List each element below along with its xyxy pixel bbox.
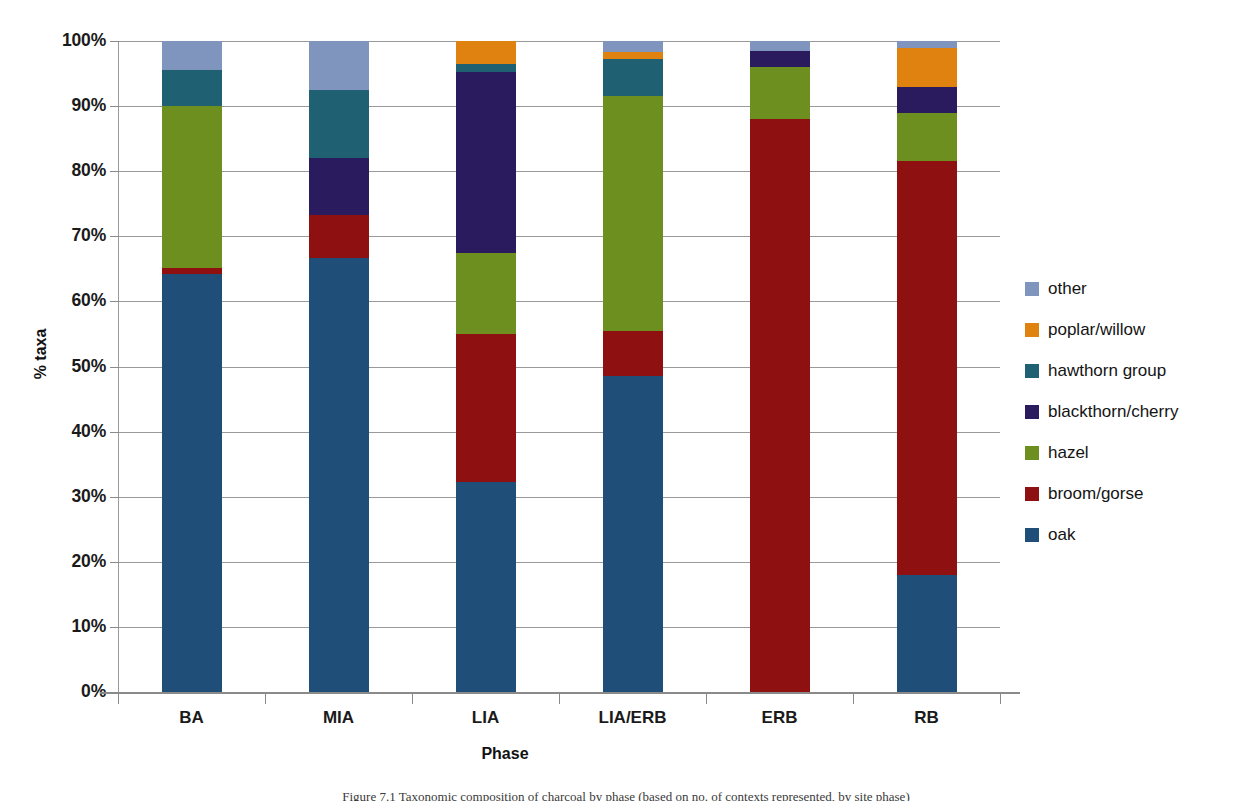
stacked-bar[interactable] (750, 41, 810, 692)
bar-segment-other[interactable] (603, 41, 663, 52)
bar-segment-broom-gorse[interactable] (603, 331, 663, 376)
legend-item-oak[interactable]: oak (1025, 514, 1250, 555)
x-axis-tick (265, 693, 266, 704)
stacked-bar[interactable] (456, 41, 516, 692)
bar-segment-other[interactable] (897, 41, 957, 48)
x-axis-label-mia: MIA (274, 708, 404, 728)
bar-segment-hazel[interactable] (456, 253, 516, 334)
bar-segment-poplar-willow[interactable] (603, 52, 663, 59)
legend-item-other[interactable]: other (1025, 268, 1250, 309)
x-axis-tick (853, 693, 854, 704)
legend-swatch-icon (1025, 282, 1039, 296)
y-axis-tick-label: 40% (40, 423, 106, 441)
x-axis-tick (1000, 693, 1001, 704)
legend-swatch-icon (1025, 405, 1039, 419)
x-axis-tick (118, 693, 119, 704)
bar-segment-oak[interactable] (603, 376, 663, 692)
bar-segment-blackthorn-cherry[interactable] (309, 158, 369, 215)
y-axis-tick-label: 80% (40, 162, 106, 180)
legend-label: blackthorn/cherry (1048, 403, 1178, 420)
y-axis-tick (110, 171, 119, 172)
chart-figure: % taxa 0%10%20%30%40%50%60%70%80%90%100%… (0, 0, 1252, 801)
gridline (118, 627, 1000, 628)
bar-group-lia-erb[interactable] (603, 41, 663, 692)
x-axis-title: Phase (0, 745, 1010, 763)
bar-group-lia[interactable] (456, 41, 516, 692)
bar-segment-oak[interactable] (897, 575, 957, 692)
legend-swatch-icon (1025, 446, 1039, 460)
gridline (118, 106, 1000, 107)
bar-group-rb[interactable] (897, 41, 957, 692)
bar-segment-hazel[interactable] (897, 113, 957, 162)
bar-segment-hazel[interactable] (162, 106, 222, 267)
stacked-bar[interactable] (309, 41, 369, 692)
x-axis-label-erb: ERB (715, 708, 845, 728)
legend-label: broom/gorse (1048, 485, 1143, 502)
y-axis-tick (110, 627, 119, 628)
bar-segment-hawthorn-group[interactable] (603, 59, 663, 97)
bar-segment-hawthorn-group[interactable] (162, 70, 222, 106)
bar-segment-broom-gorse[interactable] (309, 215, 369, 257)
legend-swatch-icon (1025, 528, 1039, 542)
bar-segment-blackthorn-cherry[interactable] (750, 51, 810, 67)
legend-label: oak (1048, 526, 1075, 543)
bar-segment-oak[interactable] (162, 274, 222, 692)
gridline (118, 301, 1000, 302)
bar-segment-oak[interactable] (309, 258, 369, 692)
bar-segment-other[interactable] (162, 41, 222, 70)
gridline (118, 236, 1000, 237)
gridline (118, 432, 1000, 433)
y-axis-tick-label: 30% (40, 488, 106, 506)
bar-segment-hazel[interactable] (750, 67, 810, 119)
bar-segment-hawthorn-group[interactable] (309, 90, 369, 158)
stacked-bar[interactable] (603, 41, 663, 692)
legend-item-broom-gorse[interactable]: broom/gorse (1025, 473, 1250, 514)
bar-segment-blackthorn-cherry[interactable] (897, 87, 957, 113)
gridline (118, 497, 1000, 498)
bar-segment-hazel[interactable] (603, 96, 663, 330)
bar-segment-poplar-willow[interactable] (897, 48, 957, 87)
y-axis-tick-label: 10% (40, 618, 106, 636)
bar-segment-other[interactable] (750, 41, 810, 51)
legend-swatch-icon (1025, 487, 1039, 501)
legend-label: other (1048, 280, 1087, 297)
legend-swatch-icon (1025, 323, 1039, 337)
y-axis-tick (110, 367, 119, 368)
bar-segment-broom-gorse[interactable] (456, 334, 516, 482)
x-axis-label-lia-erb: LIA/ERB (568, 708, 698, 728)
legend-item-poplar-willow[interactable]: poplar/willow (1025, 309, 1250, 350)
bar-segment-oak[interactable] (456, 482, 516, 692)
bar-segment-broom-gorse[interactable] (162, 268, 222, 275)
gridline (118, 562, 1000, 563)
bar-segment-blackthorn-cherry[interactable] (456, 72, 516, 252)
y-axis-tick (110, 562, 119, 563)
legend-item-blackthorn-cherry[interactable]: blackthorn/cherry (1025, 391, 1250, 432)
bar-segment-broom-gorse[interactable] (750, 119, 810, 692)
bar-segment-hawthorn-group[interactable] (456, 64, 516, 72)
y-axis-tick-labels: 0%10%20%30%40%50%60%70%80%90%100% (34, 0, 106, 801)
bar-segment-broom-gorse[interactable] (897, 161, 957, 575)
stacked-bar[interactable] (897, 41, 957, 692)
y-axis-tick-label: 90% (40, 97, 106, 115)
bar-group-ba[interactable] (162, 41, 222, 692)
plot-area (118, 41, 1000, 692)
figure-caption: Figure 7.1 Taxonomic composition of char… (0, 789, 1252, 801)
legend-swatch-icon (1025, 364, 1039, 378)
legend-item-hawthorn-group[interactable]: hawthorn group (1025, 350, 1250, 391)
legend-item-hazel[interactable]: hazel (1025, 432, 1250, 473)
bar-segment-other[interactable] (309, 41, 369, 90)
stacked-bar[interactable] (162, 41, 222, 692)
bar-group-erb[interactable] (750, 41, 810, 692)
y-axis-tick-label: 100% (40, 32, 106, 50)
legend-label: hawthorn group (1048, 362, 1166, 379)
x-axis-tick (412, 693, 413, 704)
y-axis-tick (110, 236, 119, 237)
y-axis-tick (110, 432, 119, 433)
gridline (118, 41, 1000, 42)
gridline (118, 367, 1000, 368)
bar-segment-poplar-willow[interactable] (456, 41, 516, 64)
x-axis-label-lia: LIA (421, 708, 551, 728)
x-axis-label-rb: RB (862, 708, 992, 728)
bar-group-mia[interactable] (309, 41, 369, 692)
x-axis-tick (559, 693, 560, 704)
